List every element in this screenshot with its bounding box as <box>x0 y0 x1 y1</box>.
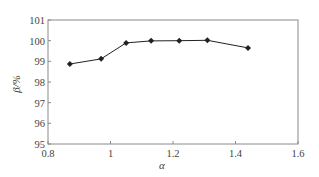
x-tick-label: 1.6 <box>291 148 304 159</box>
diamond-marker <box>176 38 182 44</box>
y-tick-label: 100 <box>29 36 45 47</box>
diamond-marker <box>204 37 210 43</box>
x-tick-label: 0.8 <box>41 148 54 159</box>
y-tick-label: 99 <box>35 56 46 67</box>
y-tick-label: 98 <box>35 77 46 88</box>
y-tick-label: 97 <box>35 98 46 109</box>
series-line <box>70 40 248 64</box>
diamond-marker <box>123 40 129 46</box>
diamond-marker <box>67 61 73 67</box>
y-axis-label: β/% <box>10 75 22 94</box>
x-tick-label: 1.2 <box>166 148 179 159</box>
line-chart: 9596979899100101 0.811.21.41.6 α β/% <box>0 0 319 177</box>
diamond-marker <box>98 56 104 62</box>
diamond-marker <box>148 38 154 44</box>
diamond-marker <box>245 45 251 51</box>
x-tick-label: 1 <box>108 148 113 159</box>
x-axis-label: α <box>159 159 165 171</box>
y-tick-label: 96 <box>35 118 46 129</box>
plot-frame <box>48 20 298 144</box>
y-tick-label: 101 <box>29 15 45 26</box>
x-tick-label: 1.4 <box>229 148 243 159</box>
data-markers <box>67 37 251 67</box>
